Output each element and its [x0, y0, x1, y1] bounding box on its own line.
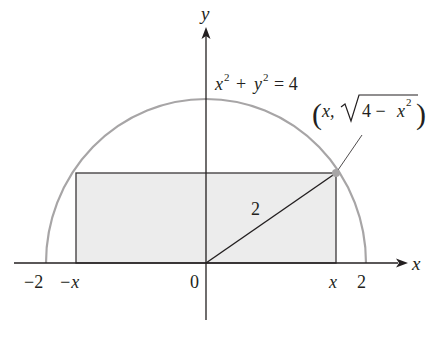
svg-text:y: y — [252, 74, 262, 94]
svg-text:2: 2 — [224, 71, 230, 83]
tick-x: x — [328, 272, 337, 292]
semicircle-rectangle-diagram: y x −2 −x 0 x 2 2 x 2 + y 2 = 4 ( x, 4 −… — [0, 0, 435, 337]
curve-point — [332, 169, 340, 177]
svg-text:= 4: = 4 — [274, 74, 298, 94]
svg-text:2: 2 — [406, 96, 412, 108]
point-label: ( x, 4 − x 2 ) — [312, 95, 426, 131]
svg-text:4 −: 4 − — [362, 101, 386, 121]
curve-equation: x 2 + y 2 = 4 — [214, 71, 298, 94]
tick-two: 2 — [357, 272, 366, 292]
svg-text:x: x — [396, 101, 405, 121]
svg-text:(: ( — [312, 97, 322, 131]
svg-text:2: 2 — [263, 71, 269, 83]
svg-text:x: x — [214, 74, 223, 94]
svg-text:+: + — [236, 74, 246, 94]
svg-text:x,: x, — [321, 101, 335, 121]
point-leader-line — [338, 135, 362, 170]
svg-text:): ) — [416, 97, 426, 131]
tick-neg-x: −x — [59, 272, 79, 292]
y-axis-label: y — [199, 3, 210, 24]
tick-neg-two: −2 — [24, 272, 43, 292]
x-axis-label: x — [411, 253, 421, 274]
radius-label: 2 — [251, 199, 260, 219]
origin-label: 0 — [190, 272, 199, 292]
